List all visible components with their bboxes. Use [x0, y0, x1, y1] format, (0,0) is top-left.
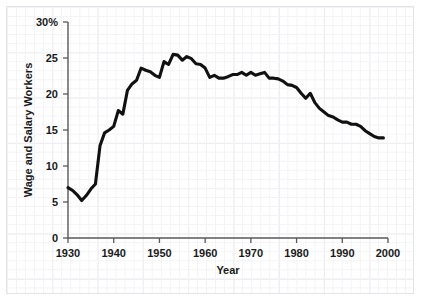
axis-lines — [68, 22, 388, 238]
x-tick-label: 1980 — [284, 247, 308, 259]
y-tick-label: 15 — [46, 124, 58, 136]
y-tick-label: 10 — [46, 160, 58, 172]
y-axis-tick-labels: 051015202530% — [36, 16, 58, 244]
x-axis-tick-labels: 19301940195019601970198019902000 — [56, 247, 400, 259]
y-tick-label: 30% — [36, 16, 58, 28]
x-tick-label: 1930 — [56, 247, 80, 259]
y-tick-label: 5 — [52, 196, 58, 208]
y-tick-label: 25 — [46, 52, 58, 64]
y-tick-label: 0 — [52, 232, 58, 244]
y-axis-ticks — [63, 22, 68, 238]
y-axis-title: Wage and Salary Workers — [22, 63, 34, 198]
x-axis-title: Year — [216, 264, 240, 276]
x-tick-label: 1970 — [239, 247, 263, 259]
x-tick-label: 1940 — [101, 247, 125, 259]
x-tick-label: 1960 — [193, 247, 217, 259]
data-series-line — [68, 54, 383, 200]
x-tick-label: 2000 — [376, 247, 400, 259]
line-chart-plot: 051015202530% 19301940195019601970198019… — [0, 0, 423, 302]
x-tick-label: 1950 — [147, 247, 171, 259]
chart-figure: 051015202530% 19301940195019601970198019… — [0, 0, 423, 302]
x-axis-ticks — [68, 238, 388, 243]
y-tick-label: 20 — [46, 88, 58, 100]
x-tick-label: 1990 — [330, 247, 354, 259]
